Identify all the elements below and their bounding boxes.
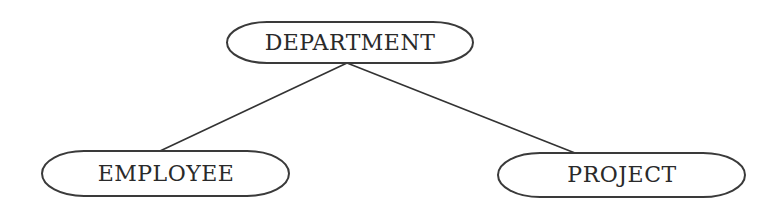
node-project[interactable]: PROJECT xyxy=(498,153,745,197)
edge-department-project xyxy=(347,63,575,153)
hierarchy-diagram: DEPARTMENT EMPLOYEE PROJECT xyxy=(0,0,775,216)
node-employee[interactable]: EMPLOYEE xyxy=(42,151,289,196)
node-project-label: PROJECT xyxy=(567,162,676,187)
node-department-label: DEPARTMENT xyxy=(265,30,436,55)
node-employee-label: EMPLOYEE xyxy=(98,161,235,186)
node-department[interactable]: DEPARTMENT xyxy=(227,22,473,63)
edge-department-employee xyxy=(160,63,347,151)
